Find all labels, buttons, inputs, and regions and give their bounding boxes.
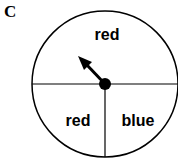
sector-label-bottom-right: blue bbox=[122, 112, 155, 129]
sector-label-bottom-left: red bbox=[66, 112, 91, 129]
spinner-hub bbox=[99, 78, 111, 90]
sector-label-top: red bbox=[95, 26, 120, 43]
spinner: red red blue bbox=[0, 0, 178, 166]
